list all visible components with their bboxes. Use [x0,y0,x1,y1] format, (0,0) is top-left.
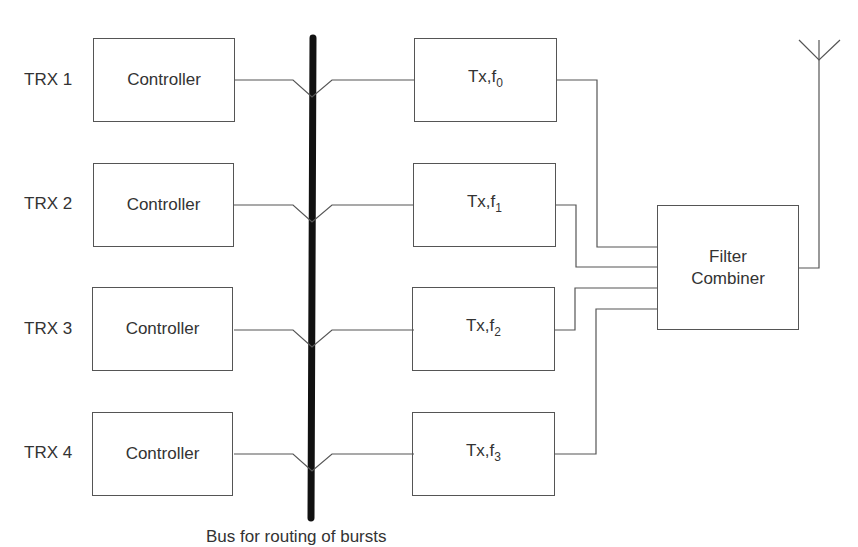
controller-box-2: Controller [93,163,234,247]
controller-label: Controller [126,318,200,340]
tx-label: Tx,f [467,192,495,211]
trx-label-2: TRX 2 [24,194,72,214]
bus-caption: Bus for routing of bursts [206,527,386,547]
filter-combiner-box: Filter Combiner [657,205,799,330]
controller-label: Controller [127,194,201,216]
tx-subscript: 2 [494,325,501,339]
tx-box-2: Tx,f2 [412,287,555,371]
tx-label: Tx,f [466,441,494,460]
controller-box-1: Controller [93,38,235,122]
tx3-to-combiner [555,309,657,454]
controller-label: Controller [127,69,201,91]
tx-subscript: 1 [495,201,502,215]
tx0-to-combiner [556,80,657,247]
tx-box-3: Tx,f3 [412,412,555,496]
controller-label: Controller [126,443,200,465]
link-row-2 [234,205,414,222]
tx-label: Tx,f [466,316,494,335]
controller-box-4: Controller [92,412,233,496]
tx-box-1: Tx,f1 [413,163,556,247]
link-row-4 [234,454,414,471]
link-row-3 [234,330,414,347]
controller-box-3: Controller [92,287,233,371]
combiner-to-antenna [798,40,819,268]
bus-line [311,38,313,518]
trx-label-3: TRX 3 [24,319,72,339]
combiner-line1: Filter [709,246,747,268]
tx-subscript: 0 [496,76,503,90]
link-row-1 [234,80,414,97]
combiner-line2: Combiner [691,268,765,290]
tx-box-0: Tx,f0 [414,38,557,122]
trx-label-1: TRX 1 [24,70,72,90]
tx-label: Tx,f [468,67,496,86]
trx-label-4: TRX 4 [24,443,72,463]
tx1-to-combiner [556,205,657,267]
tx-subscript: 3 [494,450,501,464]
